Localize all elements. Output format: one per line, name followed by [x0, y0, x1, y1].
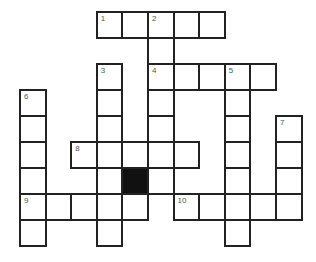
crossword-cell[interactable]: 10 — [173, 193, 201, 221]
crossword-cell[interactable]: 6 — [19, 89, 47, 117]
crossword-cell[interactable] — [147, 115, 175, 143]
crossword-cell[interactable] — [249, 63, 277, 91]
crossword-cell[interactable] — [96, 115, 124, 143]
crossword-cell[interactable] — [147, 167, 175, 195]
clue-number: 7 — [280, 118, 284, 127]
crossword-cell[interactable]: 5 — [224, 63, 252, 91]
clue-number: 4 — [152, 66, 156, 75]
crossword-cell[interactable] — [173, 63, 201, 91]
crossword-cell[interactable] — [249, 193, 277, 221]
crossword-cell[interactable] — [121, 193, 149, 221]
crossword-cell[interactable] — [173, 11, 201, 39]
crossword-cell[interactable] — [45, 193, 73, 221]
crossword-cell[interactable] — [96, 141, 124, 169]
black-square — [121, 167, 149, 195]
clue-number: 6 — [24, 92, 28, 101]
crossword-cell[interactable] — [224, 89, 252, 117]
crossword-cell[interactable] — [224, 115, 252, 143]
crossword-cell[interactable] — [275, 167, 303, 195]
crossword-cell[interactable] — [70, 193, 98, 221]
crossword-cell[interactable] — [96, 167, 124, 195]
crossword-cell[interactable] — [96, 193, 124, 221]
crossword-cell[interactable]: 8 — [70, 141, 98, 169]
clue-number: 1 — [101, 14, 105, 23]
crossword-cell[interactable] — [275, 193, 303, 221]
crossword-cell[interactable] — [19, 167, 47, 195]
crossword-cell[interactable] — [147, 89, 175, 117]
crossword-cell[interactable]: 3 — [96, 63, 124, 91]
crossword-cell[interactable] — [224, 141, 252, 169]
clue-number: 3 — [101, 66, 105, 75]
clue-number: 8 — [75, 144, 79, 153]
crossword-cell[interactable] — [19, 219, 47, 247]
crossword-cell[interactable] — [198, 11, 226, 39]
crossword-cell[interactable] — [224, 193, 252, 221]
crossword-cell[interactable] — [121, 141, 149, 169]
crossword-cell[interactable]: 4 — [147, 63, 175, 91]
crossword-cell[interactable]: 1 — [96, 11, 124, 39]
clue-number: 5 — [229, 66, 233, 75]
crossword-cell[interactable] — [198, 193, 226, 221]
crossword-cell[interactable] — [19, 115, 47, 143]
crossword-cell[interactable]: 9 — [19, 193, 47, 221]
crossword-cell[interactable] — [224, 219, 252, 247]
crossword-cell[interactable]: 2 — [147, 11, 175, 39]
crossword-cell[interactable] — [19, 141, 47, 169]
crossword-grid: 12435697810 — [0, 0, 316, 262]
crossword-cell[interactable] — [96, 219, 124, 247]
crossword-cell[interactable] — [121, 11, 149, 39]
crossword-cell[interactable] — [147, 141, 175, 169]
clue-number: 10 — [178, 196, 187, 205]
crossword-cell[interactable] — [147, 37, 175, 65]
crossword-cell[interactable] — [224, 167, 252, 195]
crossword-cell[interactable] — [198, 63, 226, 91]
crossword-cell[interactable] — [173, 141, 201, 169]
crossword-cell[interactable] — [96, 89, 124, 117]
clue-number: 9 — [24, 196, 28, 205]
crossword-cell[interactable] — [275, 141, 303, 169]
clue-number: 2 — [152, 14, 156, 23]
crossword-cell[interactable]: 7 — [275, 115, 303, 143]
